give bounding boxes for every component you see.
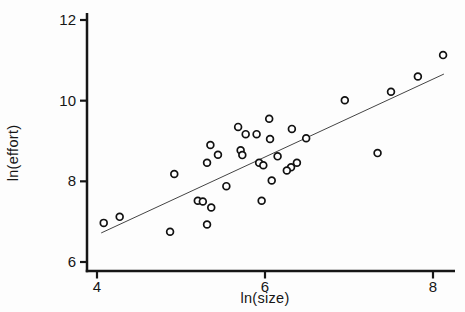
data-point — [253, 131, 260, 138]
data-point — [258, 197, 265, 204]
data-point — [171, 171, 178, 178]
data-point — [223, 183, 230, 190]
x-tick-label: 8 — [429, 278, 437, 295]
data-point — [242, 131, 249, 138]
y-tick-label: 6 — [68, 253, 76, 270]
y-tick-label: 12 — [59, 11, 76, 28]
data-point — [283, 167, 290, 174]
y-axis-label: ln(effort) — [5, 125, 21, 182]
data-point — [239, 152, 246, 159]
data-point — [207, 142, 214, 149]
data-point — [341, 97, 348, 104]
data-point — [414, 73, 421, 80]
data-point — [235, 123, 242, 130]
data-point — [215, 151, 222, 158]
y-tick-label: 8 — [68, 172, 76, 189]
data-point — [208, 204, 215, 211]
data-point — [288, 125, 295, 132]
data-point — [204, 221, 211, 228]
data-point — [199, 198, 206, 205]
data-point — [100, 219, 107, 226]
data-point — [116, 213, 123, 220]
data-point — [440, 52, 447, 59]
y-tick-label: 10 — [59, 92, 76, 109]
data-point — [268, 177, 275, 184]
data-point — [374, 150, 381, 157]
data-point — [204, 159, 211, 166]
plot-canvas: 681012468ln(size)ln(effort) — [0, 0, 465, 312]
regression-line — [101, 74, 444, 233]
x-tick-label: 4 — [93, 278, 101, 295]
data-point — [274, 153, 281, 160]
data-point — [388, 88, 395, 95]
scatter-chart: 681012468ln(size)ln(effort) — [0, 0, 465, 312]
data-point — [260, 162, 267, 169]
data-point — [267, 136, 274, 143]
data-point — [167, 228, 174, 235]
data-point — [303, 135, 310, 142]
x-axis-label: ln(size) — [240, 290, 289, 306]
data-point — [266, 115, 273, 122]
